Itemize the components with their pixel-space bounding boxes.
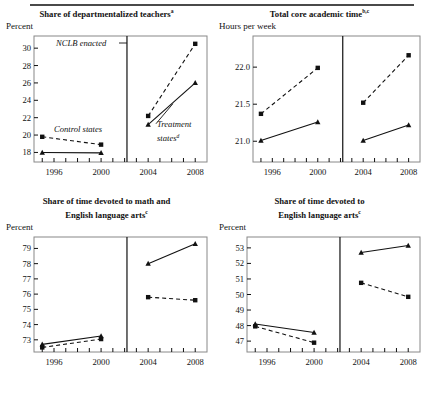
y-tick-label: 18 — [22, 147, 31, 157]
control-states-annotation: Control states — [54, 123, 103, 133]
y-axis-label: Hours per week — [213, 20, 426, 32]
x-tick-label: 2004 — [140, 167, 158, 177]
panel-time-ela: Share of time devoted toEnglish language… — [213, 196, 426, 382]
y-tick-label: 21.5 — [235, 99, 250, 109]
series-line-control — [361, 283, 408, 297]
panel-departmentalized-teachers: Share of departmentalized teachersa Perc… — [0, 6, 213, 192]
y-axis-label: Percent — [0, 221, 213, 233]
x-tick-label: 1996 — [45, 167, 63, 177]
panel-title: Total core academic timeb,c — [213, 6, 426, 20]
y-tick-label: 51 — [235, 274, 244, 284]
y-tick-label: 52 — [235, 258, 244, 268]
panel-time-math-and-ela: Share of time devoted to math andEnglish… — [0, 196, 213, 382]
series-line-treatment — [363, 125, 408, 141]
y-tick-label: 79 — [22, 243, 31, 253]
plot-area: 21.021.522.01996200020042008 — [213, 32, 426, 182]
y-tick-label: 74 — [22, 319, 31, 329]
marker-square-control — [40, 134, 44, 138]
series-line-treatment — [148, 244, 195, 264]
treatment-states-annotation-line2: statesd — [157, 133, 180, 143]
y-axis-label: Percent — [0, 20, 213, 32]
treatment-states-superscript: d — [177, 133, 180, 139]
y-tick-label: 22 — [22, 113, 31, 123]
panel-title: Share of time devoted to math andEnglish… — [0, 196, 213, 221]
marker-triangle-treatment — [193, 80, 198, 85]
marker-triangle-treatment — [98, 333, 103, 338]
x-tick-label: 2000 — [305, 357, 322, 367]
marker-triangle-treatment — [406, 243, 411, 248]
marker-triangle-treatment — [193, 241, 198, 246]
x-tick-label: 2008 — [400, 357, 417, 367]
marker-triangle-treatment — [253, 321, 258, 326]
x-tick-label: 2000 — [309, 167, 326, 177]
panel-title-line1: Share of time devoted to math and — [43, 196, 171, 206]
x-tick-label: 2000 — [92, 357, 109, 367]
marker-square-control — [406, 295, 410, 299]
panel-title-line2: English language arts — [65, 210, 145, 220]
y-tick-label: 21.0 — [235, 136, 250, 146]
y-tick-label: 47 — [235, 336, 244, 346]
x-tick-label: 2008 — [400, 167, 417, 177]
panel-total-core-academic-time: Total core academic timeb,c Hours per we… — [213, 6, 426, 192]
series-line-control — [148, 297, 195, 300]
plot-svg: 737475767778791996200020042008 — [0, 233, 213, 372]
marker-square-control — [193, 298, 197, 302]
marker-square-control — [146, 295, 150, 299]
y-axis-label: Percent — [213, 221, 426, 233]
panel-title-superscript: c — [358, 209, 360, 215]
x-tick-label: 2000 — [92, 167, 109, 177]
y-tick-label: 30 — [22, 43, 31, 53]
plot-svg: 182022242628301996200020042008NCLB enact… — [0, 32, 213, 182]
marker-square-control — [312, 340, 316, 344]
y-tick-label: 49 — [235, 305, 244, 315]
panel-title: Share of departmentalized teachersa — [0, 6, 213, 20]
y-tick-label: 75 — [22, 304, 31, 314]
y-tick-label: 28 — [22, 60, 31, 70]
x-tick-label: 2004 — [140, 357, 158, 367]
y-tick-label: 22.0 — [235, 62, 250, 72]
y-tick-label: 73 — [22, 335, 31, 345]
panel-title-superscript: b,c — [362, 8, 369, 14]
plot-area: 474849505152531996200020042008 — [213, 233, 426, 372]
plot-area: 737475767778791996200020042008 — [0, 233, 213, 372]
plot-svg: 474849505152531996200020042008 — [213, 233, 426, 372]
plot-frame — [247, 237, 420, 352]
plot-frame — [34, 237, 207, 352]
y-tick-label: 78 — [22, 259, 31, 269]
x-tick-label: 1996 — [258, 357, 276, 367]
plot-frame — [253, 36, 420, 162]
marker-triangle-treatment — [315, 119, 320, 124]
y-tick-label: 53 — [235, 243, 244, 253]
marker-square-control — [193, 42, 197, 46]
nclb-enacted-annotation: NCLB enacted — [55, 38, 107, 48]
panel-title-text: Share of departmentalized teachers — [39, 9, 170, 19]
x-tick-label: 2008 — [187, 167, 204, 177]
panel-title-line2: English language arts — [278, 210, 358, 220]
plot-area: 182022242628301996200020042008NCLB enact… — [0, 32, 213, 182]
series-line-control — [363, 55, 408, 102]
marker-square-control — [316, 66, 320, 70]
y-tick-label: 24 — [22, 95, 31, 105]
treatment-states-annotation: Treatment — [157, 119, 192, 129]
marker-triangle-treatment — [406, 122, 411, 127]
series-line-treatment — [361, 245, 408, 252]
series-line-treatment — [261, 122, 318, 141]
y-tick-label: 50 — [235, 289, 244, 299]
plot-svg: 21.021.522.01996200020042008 — [213, 32, 426, 182]
marker-square-control — [361, 100, 365, 104]
y-tick-label: 20 — [22, 130, 31, 140]
plot-frame — [34, 36, 207, 162]
marker-square-control — [406, 53, 410, 57]
y-tick-label: 77 — [22, 274, 31, 284]
panel-title-text: Total core academic time — [270, 9, 362, 19]
panel-title-line1: Share of time devoted to — [274, 196, 364, 206]
y-tick-label: 26 — [22, 78, 31, 88]
series-line-control — [261, 68, 318, 114]
marker-square-control — [99, 142, 103, 146]
panel-title-superscript: a — [171, 8, 174, 14]
x-tick-label: 2008 — [187, 357, 204, 367]
marker-square-control — [259, 112, 263, 116]
y-tick-label: 76 — [22, 289, 31, 299]
panel-title-superscript: c — [145, 209, 147, 215]
x-tick-label: 1996 — [264, 167, 282, 177]
